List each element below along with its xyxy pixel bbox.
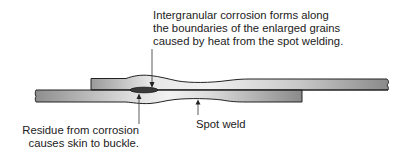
annotation-line: caused by heat from the spot welding. — [153, 35, 343, 48]
annotation-line: causes skin to buckle. — [0, 137, 139, 150]
annotation-line: Intergranular corrosion forms along — [153, 9, 343, 22]
bottom-plate — [35, 90, 302, 104]
annotation-line: the boundaries of the enlarged grains — [153, 22, 343, 35]
corrosion-residue — [130, 87, 158, 93]
spot-weld-label: Spot weld — [196, 118, 246, 131]
annotation-line: Residue from corrosion — [0, 124, 139, 137]
residue-annotation: Residue from corrosion causes skin to bu… — [0, 124, 139, 150]
intergranular-corrosion-annotation: Intergranular corrosion forms along the … — [153, 9, 343, 48]
arrow-up-icon — [196, 100, 201, 105]
